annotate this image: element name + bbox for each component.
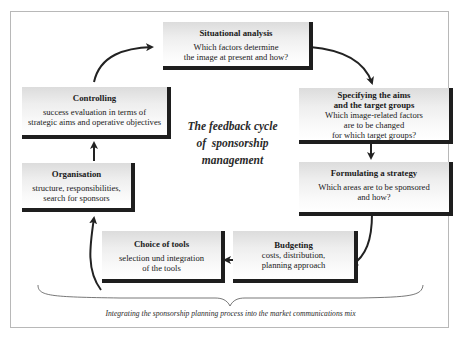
step-title: Choice of tools	[102, 239, 221, 249]
step-line: Which factors determine	[163, 42, 309, 52]
integration-brace	[38, 285, 423, 306]
step-formulating-strategy: Formulating a strategy Which areas are t…	[299, 162, 453, 216]
step-title: Organisation	[22, 169, 131, 179]
step-line: Which image-related factors	[299, 110, 449, 120]
arrow-situational-to-specifying	[310, 47, 372, 83]
integration-caption: Integrating the sponsorship planning pro…	[10, 309, 451, 318]
step-line: success evaluation in terms of	[22, 107, 167, 117]
step-line: planning approach	[233, 260, 354, 270]
step-line: are to be changed	[299, 120, 449, 130]
step-line: the image at present and how?	[163, 52, 309, 62]
step-line: selection und integration	[102, 253, 221, 263]
step-title: Formulating a strategy	[299, 168, 449, 178]
center-title-line: The feedback cycle	[160, 118, 305, 135]
step-budgeting: Budgeting costs, distribution, planning …	[233, 231, 358, 283]
step-line: and how?	[299, 192, 449, 202]
step-line: costs, distribution,	[233, 250, 354, 260]
step-line: structure, responsibilities,	[22, 183, 131, 193]
arrow-choice-to-organisation	[90, 218, 101, 290]
step-choice-of-tools: Choice of tools selection und integratio…	[102, 231, 225, 283]
step-title: Specifying the aims	[299, 90, 449, 100]
step-line: Which areas are to be sponsored	[299, 182, 449, 192]
center-title-line: management	[160, 152, 305, 169]
step-title: Budgeting	[233, 240, 354, 250]
step-line: for which target groups?	[299, 130, 449, 140]
center-title-line: of sponsorship	[160, 135, 305, 152]
arrow-controlling-to-situational	[94, 47, 152, 82]
step-title: and the target groups	[299, 100, 449, 110]
step-organisation: Organisation structure, responsibilities…	[22, 163, 135, 212]
step-line: strategic aims and operative objectives	[22, 117, 167, 127]
step-situational-analysis: Situational analysis Which factors deter…	[163, 22, 313, 70]
center-title: The feedback cycle of sponsorship manage…	[160, 118, 305, 169]
step-controlling: Controlling success evaluation in terms …	[22, 87, 171, 139]
step-title: Controlling	[22, 93, 167, 103]
step-title: Situational analysis	[163, 28, 309, 38]
step-specifying-aims: Specifying the aims and the target group…	[299, 88, 453, 144]
step-line: search for sponsors	[22, 193, 131, 203]
step-line: of the tools	[102, 263, 221, 273]
